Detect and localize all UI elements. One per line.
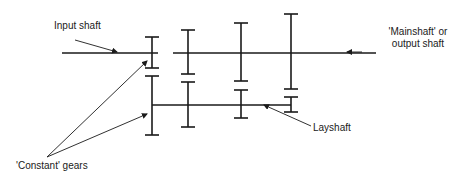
layshaft-gear-3 bbox=[234, 90, 248, 118]
layshaft-leader bbox=[264, 105, 311, 126]
input-shaft-label: Input shaft bbox=[54, 20, 101, 32]
mainshaft-gear-2 bbox=[181, 30, 195, 74]
constant-gears-leader-top bbox=[47, 61, 147, 157]
layshaft-label: Layshaft bbox=[313, 122, 351, 134]
gearbox-diagram: Input shaft 'Mainshaft' or output shaft … bbox=[0, 0, 453, 182]
mainshaft-label-line2: output shaft bbox=[383, 38, 453, 50]
mainshaft-gear-3 bbox=[234, 23, 248, 81]
mainshaft-label: 'Mainshaft' or output shaft bbox=[383, 26, 453, 50]
gears-group bbox=[145, 14, 298, 135]
input-shaft-leader bbox=[75, 40, 117, 52]
mainshaft-gear-4 bbox=[284, 14, 298, 89]
constant-gears-leader-bottom bbox=[47, 114, 147, 157]
constant-gears-label: 'Constant' gears bbox=[16, 160, 88, 172]
mainshaft-label-line1: 'Mainshaft' or bbox=[383, 26, 453, 38]
leader-lines bbox=[47, 40, 362, 157]
